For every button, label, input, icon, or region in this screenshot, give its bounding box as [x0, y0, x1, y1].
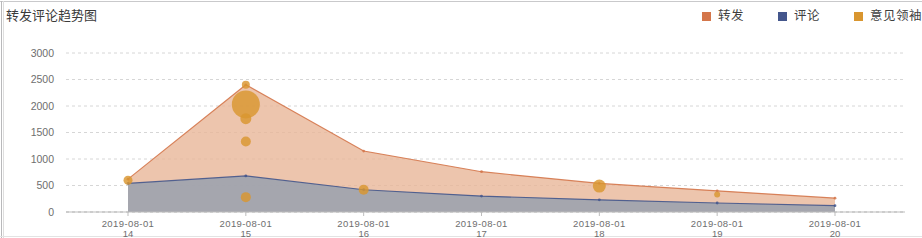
chart-legend: 转发 评论 意见领袖 — [702, 9, 922, 23]
opinion-leader-bubble[interactable] — [124, 176, 133, 185]
opinion-leader-bubble[interactable] — [242, 81, 250, 89]
opinion-leader-bubble[interactable] — [714, 192, 720, 198]
opinion-leader-bubble[interactable] — [241, 137, 251, 147]
series-data-point[interactable] — [480, 170, 483, 173]
chart-plot-area: 050010001500200025003000 2019-08-0114201… — [0, 28, 922, 238]
x-axis-tick-label-hour: 14 — [123, 228, 134, 238]
chart-x-axis — [66, 212, 905, 216]
series-data-point[interactable] — [362, 150, 365, 153]
x-axis-tick-label-hour: 15 — [241, 228, 252, 238]
page-title: 转发评论趋势图 — [6, 8, 97, 24]
legend-label-forward: 转发 — [718, 9, 744, 23]
series-data-point[interactable] — [834, 197, 837, 200]
y-axis-tick-label: 1500 — [31, 126, 55, 138]
legend-label-comment: 评论 — [794, 9, 820, 23]
y-axis-tick-label: 0 — [48, 206, 54, 218]
trend-chart-svg: 050010001500200025003000 2019-08-0114201… — [0, 28, 922, 238]
series-data-point[interactable] — [716, 202, 719, 205]
opinion-leader-bubble[interactable] — [593, 180, 606, 193]
x-axis-tick-label-hour: 19 — [712, 228, 723, 238]
x-axis-tick-label-hour: 20 — [830, 228, 841, 238]
chart-y-axis-labels: 050010001500200025003000 — [31, 47, 55, 218]
panel-top-divider — [0, 1, 922, 2]
y-axis-tick-label: 2000 — [31, 100, 55, 112]
x-axis-tick-label-hour: 16 — [358, 228, 369, 238]
legend-item-comment[interactable]: 评论 — [778, 9, 820, 23]
series-data-point[interactable] — [244, 175, 247, 178]
y-axis-tick-label: 3000 — [31, 47, 55, 59]
legend-item-forward[interactable]: 转发 — [702, 9, 744, 23]
y-axis-tick-label: 1000 — [31, 153, 55, 165]
series-data-point[interactable] — [834, 204, 837, 207]
legend-swatch-forward — [702, 12, 711, 21]
x-axis-tick-label-hour: 18 — [594, 228, 605, 238]
chart-x-axis-labels: 2019-08-01142019-08-01152019-08-01162019… — [102, 218, 862, 238]
legend-swatch-opinion-leader — [854, 12, 863, 21]
y-axis-tick-label: 2500 — [31, 73, 55, 85]
opinion-leader-bubble[interactable] — [241, 192, 251, 202]
legend-item-opinion-leader[interactable]: 意见领袖 — [854, 9, 922, 23]
legend-label-opinion-leader: 意见领袖 — [870, 9, 922, 23]
series-data-point[interactable] — [480, 195, 483, 198]
opinion-leader-bubble[interactable] — [240, 113, 251, 124]
y-axis-tick-label: 500 — [36, 179, 54, 191]
series-data-point[interactable] — [598, 198, 601, 201]
opinion-leader-bubble[interactable] — [359, 185, 369, 195]
legend-swatch-comment — [778, 12, 787, 21]
x-axis-tick-label-hour: 17 — [476, 228, 487, 238]
chart-panel: 转发评论趋势图 转发 评论 意见领袖 050010001500200025003… — [0, 0, 922, 238]
